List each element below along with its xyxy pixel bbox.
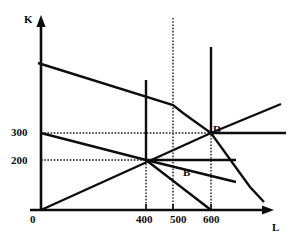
x-tick-label-500: 500 bbox=[170, 214, 187, 225]
y-axis-label: K bbox=[24, 14, 33, 25]
point-label-d: D bbox=[213, 124, 221, 135]
x-tick-label-600: 600 bbox=[203, 214, 220, 225]
axes-group bbox=[30, 15, 274, 215]
isoquant-diagram: K L 0 300 200 400 500 600 D B bbox=[0, 0, 291, 241]
y-tick-label-200: 200 bbox=[11, 155, 28, 166]
origin-label: 0 bbox=[30, 214, 36, 225]
x-tick-label-400: 400 bbox=[136, 214, 153, 225]
x-axis-arrow-icon bbox=[262, 205, 274, 214]
solid-curves bbox=[38, 47, 286, 210]
x-axis-label: L bbox=[272, 222, 279, 233]
budget-line-from-300 bbox=[41, 133, 236, 182]
point-label-b: B bbox=[183, 167, 190, 178]
y-tick-label-300: 300 bbox=[11, 127, 28, 138]
plot-canvas bbox=[0, 0, 291, 241]
y-axis-arrow-icon bbox=[36, 15, 45, 27]
ray-from-origin bbox=[41, 104, 281, 210]
